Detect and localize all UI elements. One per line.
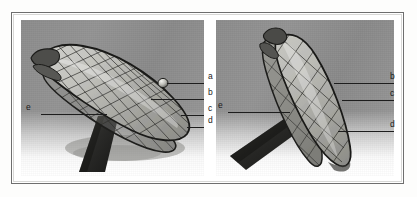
label-c-right: c — [390, 89, 394, 98]
mesh-device-illustration-right — [216, 20, 394, 176]
label-e-right: e — [218, 101, 223, 110]
label-c-left: c — [208, 104, 212, 113]
leader-line-b-left — [151, 99, 204, 100]
leader-line-c-right — [342, 100, 394, 101]
leader-line-b-right — [334, 83, 394, 84]
leader-line-c-left — [181, 115, 204, 116]
photo-panel-left — [21, 20, 204, 176]
leader-line-e-left — [41, 114, 107, 115]
leader-line-d-right — [338, 131, 394, 132]
label-b-left: b — [208, 88, 213, 97]
mesh-device-illustration-left — [21, 20, 204, 176]
label-e-left: e — [26, 103, 31, 112]
label-a-left: a — [208, 72, 213, 81]
label-b-right: b — [390, 72, 395, 81]
leader-line-e-right — [228, 112, 290, 113]
label-d-right: d — [390, 120, 395, 129]
label-d-left: d — [208, 116, 213, 125]
figure-frame: a b c d e b c d e — [11, 12, 404, 184]
leader-line-d-left — [187, 127, 204, 128]
panel-row — [12, 13, 403, 183]
leader-line-a-left — [167, 83, 204, 84]
photo-panel-right — [216, 20, 394, 176]
